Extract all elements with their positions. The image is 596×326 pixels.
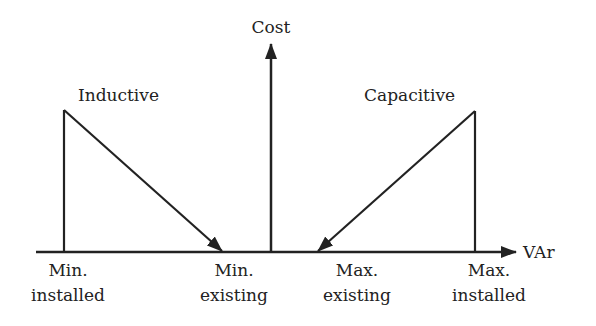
tick-max-installed-line1: Max. (468, 260, 511, 280)
inductive-label: Inductive (78, 85, 159, 105)
tick-min-existing-line2: existing (200, 285, 268, 305)
tick-max-existing-line1: Max. (336, 260, 379, 280)
inductive-slope-arrow (64, 110, 222, 251)
tick-min-installed-line2: installed (31, 285, 105, 305)
tick-min-existing-line1: Min. (214, 260, 253, 280)
tick-max-installed-line2: installed (452, 285, 526, 305)
tick-max-existing-line2: existing (323, 285, 391, 305)
x-axis-label: VAr (522, 242, 555, 262)
capacitive-slope-arrow (318, 111, 475, 251)
cost-var-diagram: Cost VAr Inductive Capacitive Min. insta… (0, 0, 596, 326)
tick-min-installed-line1: Min. (48, 260, 87, 280)
y-axis-label: Cost (252, 17, 291, 37)
capacitive-label: Capacitive (364, 85, 455, 105)
